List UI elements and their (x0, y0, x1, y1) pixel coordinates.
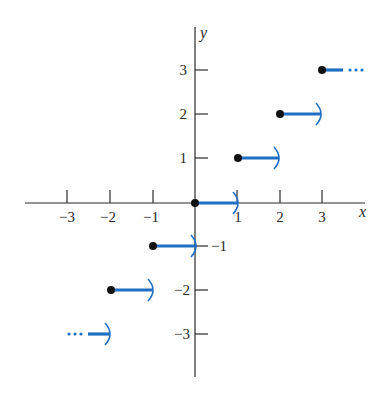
closed-endpoint (276, 110, 284, 118)
y-tick-label: −3 (174, 326, 190, 342)
step-segment-y0 (191, 192, 238, 214)
step-segment-ym2 (107, 279, 153, 301)
step-segment-ym3 (67, 323, 110, 345)
y-tick-label: −1 (211, 238, 227, 254)
step-series (67, 66, 363, 345)
x-axis-label: x (358, 203, 366, 220)
closed-endpoint (107, 286, 115, 294)
x-tick-label: 2 (276, 209, 284, 225)
x-tick-label: −3 (59, 209, 75, 225)
y-tick-label: 1 (180, 150, 188, 166)
x-tick-label: −2 (100, 209, 116, 225)
y-tick-label: 2 (180, 106, 188, 122)
x-tick-label: 3 (318, 209, 326, 225)
y-tick-label: 3 (180, 62, 188, 78)
closed-endpoint (318, 66, 326, 74)
x-tick-label: −1 (143, 209, 159, 225)
closed-endpoint (234, 154, 242, 162)
y-tick-label: −2 (174, 282, 190, 298)
step-function-chart: −3 −2 −1 1 2 3 3 2 1 −1 −2 −3 x y (0, 0, 390, 396)
step-segment-y3 (318, 66, 364, 74)
closed-endpoint (149, 242, 157, 250)
step-segment-y2 (276, 103, 321, 125)
step-segment-y1 (234, 147, 279, 169)
step-segment-ym1 (149, 235, 196, 257)
y-axis-label: y (198, 24, 208, 42)
x-tick-labels: −3 −2 −1 1 2 3 (59, 209, 326, 225)
closed-endpoint (191, 199, 199, 207)
